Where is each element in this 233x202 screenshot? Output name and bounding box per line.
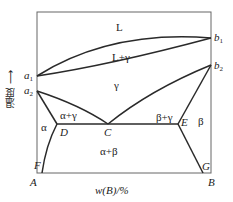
- point-b1: b1: [214, 32, 223, 47]
- region-alpha: α: [41, 122, 47, 133]
- region-liquid-gamma: L+γ: [112, 52, 130, 63]
- point-a2: a2: [24, 85, 33, 100]
- point-C: C: [104, 127, 111, 138]
- point-E: E: [181, 117, 188, 128]
- point-F: F: [34, 160, 41, 171]
- region-beta: β: [198, 116, 204, 127]
- beta-solvus-lower: [178, 124, 203, 173]
- region-liquid: L: [116, 22, 123, 33]
- point-G: G: [202, 161, 210, 172]
- point-b2: b2: [214, 60, 223, 75]
- point-D: D: [60, 127, 68, 138]
- x-axis-label: w(B)/%: [95, 185, 129, 196]
- corner-A: A: [30, 177, 37, 188]
- corner-B: B: [208, 177, 215, 188]
- alpha-solvus-upper: [37, 91, 57, 124]
- y-axis-label: 温度 ⟶: [3, 70, 17, 108]
- point-a1: a1: [24, 70, 33, 85]
- region-gamma: γ: [114, 80, 119, 91]
- region-beta-gamma: β+γ: [156, 112, 173, 123]
- region-alpha-gamma: α+γ: [60, 110, 77, 121]
- region-alpha-beta: α+β: [100, 146, 118, 157]
